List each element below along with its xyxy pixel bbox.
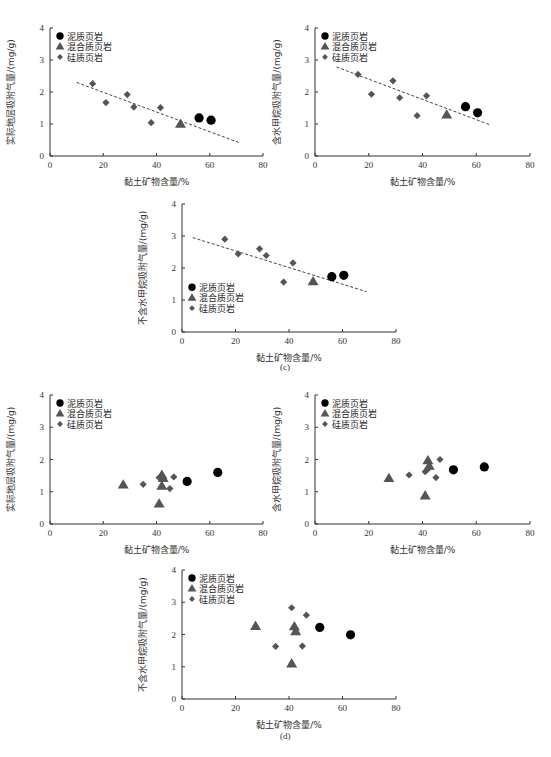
x-tick-label: 0	[48, 160, 53, 170]
y-tick-label: 4	[40, 390, 45, 400]
y-tick-label: 2	[40, 455, 45, 465]
y-tick-label: 1	[172, 662, 177, 672]
legend-label: 泥质页岩	[199, 573, 235, 584]
diamond-marker	[57, 421, 63, 427]
diamond-marker	[166, 485, 173, 492]
circle-marker	[449, 465, 458, 474]
x-tick-label: 20	[364, 160, 374, 170]
y-tick-label: 1	[40, 487, 45, 497]
legend-label: 混合质页岩	[332, 41, 377, 52]
chart-c-dry-methane: 02040608001234黏土矿物含量/%不含水甲烷吸附气量/(mg/g)泥质…	[137, 199, 401, 363]
legend-label: 硅质页岩	[199, 594, 235, 605]
circle-marker	[461, 102, 470, 111]
legend-label: 硅质页岩	[332, 419, 368, 430]
y-tick-label: 1	[172, 295, 177, 305]
chart-c-moist-methane: 02040608001234黏土矿物含量/%含水甲烷吸附气量/(mg/g)泥质页…	[271, 23, 535, 187]
circle-marker	[188, 574, 195, 581]
circle-marker	[327, 272, 336, 281]
legend-label: 泥质页岩	[67, 398, 103, 409]
diamond-marker	[436, 456, 443, 463]
diamond-marker	[170, 473, 177, 480]
diamond-marker	[322, 54, 328, 60]
legend: 泥质页岩混合质页岩硅质页岩	[321, 31, 377, 63]
diamond-marker	[221, 236, 228, 243]
diamond-marker	[423, 92, 430, 99]
legend-label: 混合质页岩	[199, 583, 244, 594]
diamond-marker	[405, 471, 412, 478]
diamond-marker	[57, 54, 63, 60]
legend-label: 硅质页岩	[67, 419, 103, 430]
y-tick-label: 0	[305, 519, 310, 529]
legend-label: 泥质页岩	[332, 398, 368, 409]
diamond-marker	[354, 71, 361, 78]
triangle-marker	[420, 490, 431, 499]
y-tick-label: 0	[172, 327, 177, 337]
y-tick-label: 3	[172, 231, 177, 241]
y-tick-label: 3	[40, 55, 45, 65]
legend: 泥质页岩混合质页岩硅质页岩	[321, 398, 377, 430]
x-tick-label: 0	[180, 336, 185, 346]
y-axis-title: 实际地层吸附气量/(mg/g)	[5, 39, 16, 144]
x-axis-title: 黏土矿物含量/%	[124, 544, 190, 555]
y-tick-label: 1	[305, 487, 310, 497]
legend: 泥质页岩混合质页岩硅质页岩	[188, 282, 244, 314]
y-tick-label: 2	[172, 630, 177, 640]
x-tick-label: 20	[99, 160, 109, 170]
diamond-marker	[299, 643, 306, 650]
y-tick-label: 4	[305, 23, 310, 33]
x-tick-label: 60	[205, 160, 215, 170]
circle-marker	[56, 32, 63, 39]
diamond-marker	[303, 612, 310, 619]
triangle-marker	[56, 409, 65, 416]
y-axis-title: 不含水甲烷吸附气量/(mg/g)	[137, 577, 148, 691]
triangle-marker	[188, 584, 197, 591]
diamond-marker	[89, 80, 96, 87]
legend-label: 混合质页岩	[199, 292, 244, 303]
circle-marker	[346, 630, 355, 639]
diamond-marker	[256, 245, 263, 252]
y-tick-label: 0	[172, 694, 177, 704]
legend-label: 泥质页岩	[199, 282, 235, 293]
x-tick-label: 20	[231, 703, 241, 713]
triangle-marker	[56, 42, 65, 49]
circle-marker	[56, 399, 63, 406]
x-tick-label: 0	[180, 703, 185, 713]
legend-label: 泥质页岩	[332, 31, 368, 42]
legend: 泥质页岩混合质页岩硅质页岩	[188, 573, 244, 605]
x-axis-title: 黏土矿物含量/%	[390, 544, 456, 555]
triangle-marker	[118, 479, 129, 488]
circle-marker	[473, 108, 482, 117]
x-tick-label: 80	[526, 160, 536, 170]
diamond-marker	[263, 252, 270, 259]
y-tick-label: 0	[40, 151, 45, 161]
triangle-marker	[321, 42, 330, 49]
x-tick-label: 60	[472, 160, 482, 170]
x-tick-label: 60	[472, 528, 482, 538]
diamond-marker	[102, 99, 109, 106]
figure-canvas: 02040608001234黏土矿物含量/%实际地层吸附气量/(mg/g)泥质页…	[0, 0, 551, 757]
y-tick-label: 3	[40, 422, 45, 432]
triangle-marker	[250, 621, 261, 630]
trend-line	[77, 82, 239, 142]
legend: 泥质页岩混合质页岩硅质页岩	[56, 31, 112, 63]
triangle-marker	[154, 498, 165, 507]
x-tick-label: 20	[364, 528, 374, 538]
legend-label: 泥质页岩	[67, 31, 103, 42]
diamond-marker	[414, 112, 421, 119]
diamond-marker	[289, 259, 296, 266]
x-tick-label: 0	[313, 528, 318, 538]
x-tick-label: 20	[99, 528, 109, 538]
y-tick-label: 2	[305, 455, 310, 465]
x-tick-label: 20	[231, 336, 241, 346]
diamond-marker	[157, 104, 164, 111]
x-tick-label: 60	[338, 336, 348, 346]
x-tick-label: 80	[259, 160, 269, 170]
y-tick-label: 4	[40, 23, 45, 33]
x-tick-label: 80	[526, 528, 536, 538]
diamond-marker	[272, 643, 279, 650]
circle-marker	[321, 32, 328, 39]
x-axis-title: 黏土矿物含量/%	[256, 352, 322, 363]
triangle-marker	[441, 109, 452, 118]
circle-marker	[480, 462, 489, 471]
chart-d-dry-methane: 02040608001234黏土矿物含量/%不含水甲烷吸附气量/(mg/g)泥质…	[137, 565, 401, 730]
